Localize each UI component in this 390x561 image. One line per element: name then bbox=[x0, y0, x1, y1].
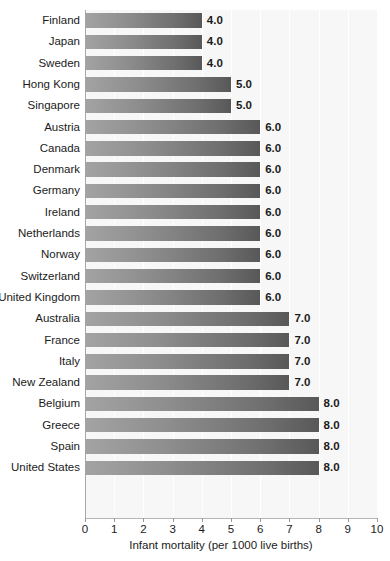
x-tick-label-9: 9 bbox=[333, 523, 363, 535]
x-tick-label-6: 6 bbox=[245, 523, 275, 535]
x-tickmark-7 bbox=[289, 518, 290, 522]
bar-value-label: 4.0 bbox=[207, 54, 223, 73]
bar-value-label: 7.0 bbox=[294, 309, 310, 328]
category-label: Sweden bbox=[38, 53, 80, 74]
category-label: Spain bbox=[51, 436, 80, 457]
bar bbox=[85, 141, 260, 155]
bar-value-label: 7.0 bbox=[294, 373, 310, 392]
category-label: Italy bbox=[59, 351, 80, 372]
x-tickmark-8 bbox=[319, 518, 320, 522]
bar bbox=[85, 290, 260, 304]
bar-value-label: 4.0 bbox=[207, 11, 223, 30]
bar bbox=[85, 205, 260, 219]
bar-row: 6.0 bbox=[85, 117, 377, 138]
x-tick-label-7: 7 bbox=[274, 523, 304, 535]
category-label: Germany bbox=[33, 180, 80, 201]
category-label: United States bbox=[11, 457, 80, 478]
bar-row: 4.0 bbox=[85, 31, 377, 52]
bar-row: 8.0 bbox=[85, 393, 377, 414]
x-tickmark-0 bbox=[85, 518, 86, 522]
bar bbox=[85, 56, 202, 70]
bar bbox=[85, 120, 260, 134]
bar-value-label: 6.0 bbox=[265, 139, 281, 158]
bar-value-label: 6.0 bbox=[265, 224, 281, 243]
category-label: Greece bbox=[42, 415, 80, 436]
bar bbox=[85, 77, 231, 91]
bar bbox=[85, 248, 260, 262]
bar-value-label: 6.0 bbox=[265, 181, 281, 200]
bar-row: 8.0 bbox=[85, 457, 377, 478]
category-label: Canada bbox=[40, 138, 80, 159]
bar-row: 4.0 bbox=[85, 53, 377, 74]
plot-area: 4.04.04.05.05.06.06.06.06.06.06.06.06.06… bbox=[85, 10, 377, 518]
bar-value-label: 6.0 bbox=[265, 203, 281, 222]
bar-row: 7.0 bbox=[85, 351, 377, 372]
bar-value-label: 6.0 bbox=[265, 267, 281, 286]
bar-value-label: 8.0 bbox=[324, 394, 340, 413]
bar-row: 6.0 bbox=[85, 223, 377, 244]
category-label: Hong Kong bbox=[22, 74, 80, 95]
x-tickmark-10 bbox=[377, 518, 378, 522]
bar bbox=[85, 439, 319, 453]
x-tickmark-9 bbox=[348, 518, 349, 522]
x-axis-ticks: 012345678910 bbox=[85, 518, 377, 538]
category-label: Ireland bbox=[45, 202, 80, 223]
bar-value-label: 8.0 bbox=[324, 458, 340, 477]
bar bbox=[85, 269, 260, 283]
bar-value-label: 8.0 bbox=[324, 416, 340, 435]
category-label: Norway bbox=[41, 244, 80, 265]
bar-value-label: 6.0 bbox=[265, 288, 281, 307]
bar-row: 6.0 bbox=[85, 180, 377, 201]
bar-value-label: 6.0 bbox=[265, 245, 281, 264]
bar bbox=[85, 162, 260, 176]
bar-row: 8.0 bbox=[85, 415, 377, 436]
bar-row: 7.0 bbox=[85, 372, 377, 393]
bar-row: 6.0 bbox=[85, 159, 377, 180]
category-label: Australia bbox=[35, 308, 80, 329]
category-label: Singapore bbox=[28, 95, 80, 116]
bar-value-label: 6.0 bbox=[265, 160, 281, 179]
bar bbox=[85, 35, 202, 49]
bar-row: 7.0 bbox=[85, 330, 377, 351]
category-label: Belgium bbox=[38, 393, 80, 414]
x-axis-title: Infant mortality (per 1000 live births) bbox=[0, 539, 390, 551]
bar bbox=[85, 461, 319, 475]
category-label: Japan bbox=[49, 31, 80, 52]
bar bbox=[85, 333, 289, 347]
bar-value-label: 5.0 bbox=[236, 96, 252, 115]
bar bbox=[85, 312, 289, 326]
bar bbox=[85, 397, 319, 411]
bar-row: 6.0 bbox=[85, 287, 377, 308]
category-axis-labels: FinlandJapanSwedenHong KongSingaporeAust… bbox=[0, 10, 80, 518]
category-label: New Zealand bbox=[12, 372, 80, 393]
x-tick-label-5: 5 bbox=[216, 523, 246, 535]
bar bbox=[85, 375, 289, 389]
bar-value-label: 8.0 bbox=[324, 437, 340, 456]
bar-row: 6.0 bbox=[85, 266, 377, 287]
x-tickmark-6 bbox=[260, 518, 261, 522]
x-tick-label-3: 3 bbox=[158, 523, 188, 535]
bar-row: 6.0 bbox=[85, 202, 377, 223]
bar-row: 7.0 bbox=[85, 308, 377, 329]
x-tick-label-2: 2 bbox=[128, 523, 158, 535]
x-tickmark-2 bbox=[143, 518, 144, 522]
bar-row: 5.0 bbox=[85, 95, 377, 116]
x-tickmark-1 bbox=[114, 518, 115, 522]
bar bbox=[85, 226, 260, 240]
bar-row: 6.0 bbox=[85, 138, 377, 159]
infant-mortality-bar-chart: FinlandJapanSwedenHong KongSingaporeAust… bbox=[0, 0, 390, 561]
bar-value-label: 4.0 bbox=[207, 32, 223, 51]
bar bbox=[85, 99, 231, 113]
category-label: Austria bbox=[44, 117, 80, 138]
bar-row: 5.0 bbox=[85, 74, 377, 95]
category-label: Netherlands bbox=[18, 223, 80, 244]
category-label: Finland bbox=[42, 10, 80, 31]
x-tickmark-5 bbox=[231, 518, 232, 522]
bar-value-label: 6.0 bbox=[265, 118, 281, 137]
bar-row: 4.0 bbox=[85, 10, 377, 31]
x-tickmark-3 bbox=[173, 518, 174, 522]
category-label: United Kingdom bbox=[0, 287, 80, 308]
bar bbox=[85, 184, 260, 198]
bar-row: 6.0 bbox=[85, 244, 377, 265]
bar bbox=[85, 418, 319, 432]
